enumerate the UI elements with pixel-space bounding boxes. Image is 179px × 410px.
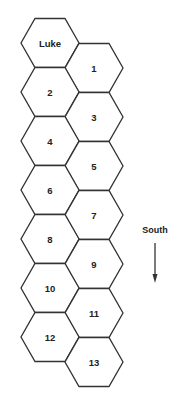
hex-label: 10 [45, 283, 56, 294]
hex-label: 1 [91, 63, 97, 74]
hex-label: 8 [47, 234, 52, 245]
hex-label: 3 [91, 112, 96, 123]
hex-label: 12 [45, 332, 56, 343]
hex-label: 11 [89, 308, 100, 319]
hex-label: Luke [39, 38, 61, 49]
hex-label: 4 [47, 136, 53, 147]
hex-grid-diagram: Luke12345678910111213 South [0, 0, 179, 410]
hex-label: 9 [91, 259, 96, 270]
direction-indicator: South [142, 225, 168, 283]
hex-label: 6 [47, 185, 52, 196]
hex-label: 2 [47, 87, 52, 98]
hex-cells: Luke12345678910111213 [21, 19, 123, 387]
south-arrow-icon [153, 274, 158, 283]
hex-label: 7 [91, 210, 96, 221]
hex-label: 5 [91, 161, 97, 172]
south-label: South [142, 225, 168, 235]
hex-label: 13 [89, 357, 100, 368]
